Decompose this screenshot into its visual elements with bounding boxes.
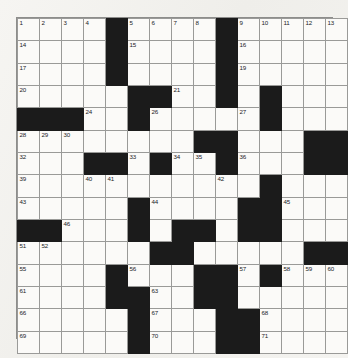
crossword-cell[interactable]: 7: [172, 19, 194, 41]
crossword-cell[interactable]: 29: [40, 130, 62, 152]
crossword-cell[interactable]: [106, 130, 128, 152]
crossword-cell[interactable]: [194, 41, 216, 63]
crossword-cell[interactable]: 17: [18, 63, 40, 85]
crossword-cell[interactable]: 66: [18, 309, 40, 331]
crossword-cell[interactable]: 24: [84, 108, 106, 130]
crossword-cell[interactable]: [304, 175, 326, 197]
crossword-cell[interactable]: [194, 175, 216, 197]
crossword-cell[interactable]: [304, 286, 326, 308]
crossword-cell[interactable]: 67: [150, 309, 172, 331]
crossword-cell[interactable]: 8: [194, 19, 216, 41]
crossword-cell[interactable]: [128, 175, 150, 197]
crossword-cell[interactable]: 56: [128, 264, 150, 286]
crossword-cell[interactable]: 51: [18, 242, 40, 264]
crossword-cell[interactable]: [326, 108, 348, 130]
crossword-cell[interactable]: 30: [62, 130, 84, 152]
crossword-cell[interactable]: [40, 309, 62, 331]
crossword-cell[interactable]: 34: [172, 152, 194, 174]
crossword-cell[interactable]: [194, 242, 216, 264]
crossword-cell[interactable]: [40, 41, 62, 63]
crossword-cell[interactable]: 1: [18, 19, 40, 41]
crossword-cell[interactable]: [238, 242, 260, 264]
crossword-cell[interactable]: [172, 264, 194, 286]
crossword-cell[interactable]: 14: [18, 41, 40, 63]
crossword-cell[interactable]: [282, 63, 304, 85]
crossword-cell[interactable]: 12: [304, 19, 326, 41]
crossword-cell[interactable]: [304, 219, 326, 241]
crossword-cell[interactable]: 40: [84, 175, 106, 197]
crossword-cell[interactable]: [40, 85, 62, 107]
crossword-cell[interactable]: [194, 85, 216, 107]
crossword-cell[interactable]: [172, 130, 194, 152]
crossword-cell[interactable]: 13: [326, 19, 348, 41]
crossword-cell[interactable]: [260, 242, 282, 264]
crossword-cell[interactable]: [216, 219, 238, 241]
crossword-cell[interactable]: [106, 108, 128, 130]
crossword-cell[interactable]: 27: [238, 108, 260, 130]
crossword-cell[interactable]: [150, 63, 172, 85]
crossword-cell[interactable]: [106, 309, 128, 331]
crossword-cell[interactable]: [172, 309, 194, 331]
crossword-cell[interactable]: [40, 63, 62, 85]
crossword-cell[interactable]: [40, 197, 62, 219]
crossword-cell[interactable]: [62, 197, 84, 219]
crossword-cell[interactable]: [150, 130, 172, 152]
crossword-cell[interactable]: [150, 264, 172, 286]
crossword-cell[interactable]: 32: [18, 152, 40, 174]
crossword-cell[interactable]: [150, 175, 172, 197]
crossword-cell[interactable]: [282, 41, 304, 63]
crossword-cell[interactable]: [282, 85, 304, 107]
crossword-cell[interactable]: [172, 175, 194, 197]
crossword-cell[interactable]: 20: [18, 85, 40, 107]
crossword-cell[interactable]: [84, 309, 106, 331]
crossword-cell[interactable]: [282, 219, 304, 241]
crossword-cell[interactable]: [304, 63, 326, 85]
crossword-cell[interactable]: [304, 309, 326, 331]
crossword-cell[interactable]: [260, 286, 282, 308]
crossword-cell[interactable]: [62, 286, 84, 308]
crossword-cell[interactable]: [194, 63, 216, 85]
crossword-cell[interactable]: [84, 286, 106, 308]
crossword-cell[interactable]: 52: [40, 242, 62, 264]
crossword-cell[interactable]: [216, 242, 238, 264]
crossword-cell[interactable]: 9: [238, 19, 260, 41]
crossword-cell[interactable]: [172, 41, 194, 63]
crossword-cell[interactable]: [106, 197, 128, 219]
crossword-cell[interactable]: [106, 219, 128, 241]
crossword-cell[interactable]: [128, 130, 150, 152]
crossword-cell[interactable]: [282, 286, 304, 308]
crossword-cell[interactable]: 5: [128, 19, 150, 41]
crossword-cell[interactable]: [194, 309, 216, 331]
crossword-cell[interactable]: [326, 309, 348, 331]
crossword-cell[interactable]: 59: [304, 264, 326, 286]
crossword-cell[interactable]: [62, 152, 84, 174]
crossword-grid[interactable]: 1234567891011121314151617192021242627282…: [17, 18, 348, 354]
crossword-cell[interactable]: [304, 331, 326, 353]
crossword-cell[interactable]: [128, 242, 150, 264]
crossword-cell[interactable]: [62, 309, 84, 331]
crossword-cell[interactable]: [260, 63, 282, 85]
crossword-cell[interactable]: [304, 41, 326, 63]
crossword-cell[interactable]: [106, 85, 128, 107]
crossword-cell[interactable]: [216, 108, 238, 130]
crossword-cell[interactable]: [238, 175, 260, 197]
crossword-cell[interactable]: [238, 85, 260, 107]
crossword-cell[interactable]: [62, 175, 84, 197]
crossword-cell[interactable]: 39: [18, 175, 40, 197]
crossword-cell[interactable]: 26: [150, 108, 172, 130]
crossword-cell[interactable]: 70: [150, 331, 172, 353]
crossword-cell[interactable]: [260, 41, 282, 63]
crossword-cell[interactable]: [62, 63, 84, 85]
crossword-cell[interactable]: [40, 264, 62, 286]
crossword-cell[interactable]: [62, 85, 84, 107]
crossword-cell[interactable]: [106, 242, 128, 264]
crossword-cell[interactable]: [40, 175, 62, 197]
crossword-cell[interactable]: 35: [194, 152, 216, 174]
crossword-cell[interactable]: [40, 152, 62, 174]
crossword-cell[interactable]: 46: [62, 219, 84, 241]
crossword-cell[interactable]: 41: [106, 175, 128, 197]
crossword-cell[interactable]: [106, 331, 128, 353]
crossword-cell[interactable]: [84, 242, 106, 264]
crossword-cell[interactable]: [84, 41, 106, 63]
crossword-cell[interactable]: [282, 331, 304, 353]
